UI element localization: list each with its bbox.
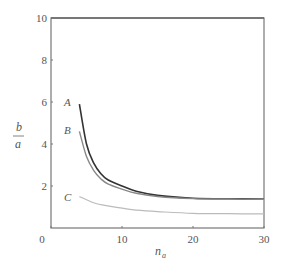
x-axis-label-subscript: a: [162, 251, 166, 260]
curve-a: [79, 104, 264, 199]
tick-labels: 0102030246810: [36, 12, 270, 245]
curve-label-a: A: [63, 96, 71, 108]
curve-b: [79, 131, 264, 199]
y-axis-label-numerator: b: [16, 120, 22, 134]
x-axis-label: n a: [155, 244, 166, 260]
y-tick-label: 4: [42, 138, 48, 150]
x-axis-label-main: n: [155, 244, 161, 258]
x-tick-label: 20: [188, 233, 200, 245]
curves: [79, 104, 264, 214]
y-axis-label-denominator: a: [15, 137, 21, 151]
y-tick-label: 8: [42, 54, 48, 66]
x-tick-label: 30: [259, 233, 271, 245]
y-tick-label: 10: [36, 12, 48, 24]
y-tick-label: 2: [42, 180, 48, 192]
curve-label-b: B: [64, 124, 71, 136]
y-tick-label: 6: [42, 96, 48, 108]
x-tick-label: 0: [39, 233, 45, 245]
chart: 0102030246810 A B C b a n a: [0, 0, 281, 274]
curve-label-c: C: [64, 191, 72, 203]
y-axis-label: b a: [13, 120, 24, 151]
x-tick-label: 10: [117, 233, 129, 245]
